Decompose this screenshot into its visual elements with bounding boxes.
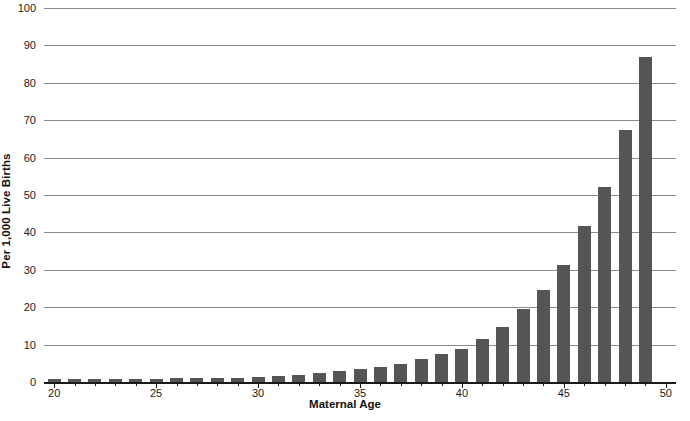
x-tick-24	[136, 382, 137, 386]
bar-age-39	[435, 354, 448, 382]
gridline-90	[44, 45, 676, 46]
x-tick-26	[177, 382, 178, 386]
bar-age-47	[598, 187, 611, 382]
gridline-100	[44, 8, 676, 9]
y-tick-label-20: 20	[0, 302, 36, 313]
y-tick-label-30: 30	[0, 265, 36, 276]
x-tick-42	[503, 382, 504, 386]
y-axis-tick-labels: 0102030405060708090100	[0, 0, 40, 421]
x-tick-29	[238, 382, 239, 386]
bar-age-38	[415, 359, 428, 382]
x-tick-37	[401, 382, 402, 386]
x-tick-22	[95, 382, 96, 386]
x-tick-23	[115, 382, 116, 386]
chart-figure: Per 1,000 Live Births 010203040506070809…	[0, 0, 690, 421]
x-tick-39	[442, 382, 443, 386]
y-tick-label-80: 80	[0, 78, 36, 89]
bar-age-33	[313, 373, 326, 382]
y-tick-label-70: 70	[0, 115, 36, 126]
x-tick-43	[523, 382, 524, 386]
bar-age-48	[619, 130, 632, 382]
bar-age-35	[354, 369, 367, 382]
bar-age-44	[537, 290, 550, 382]
gridline-80	[44, 83, 676, 84]
y-tick-label-0: 0	[0, 377, 36, 388]
bar-age-42	[496, 327, 509, 382]
bar-age-49	[639, 57, 652, 382]
bar-age-40	[455, 349, 468, 382]
y-tick-label-90: 90	[0, 40, 36, 51]
bar-age-34	[333, 371, 346, 382]
x-tick-49	[645, 382, 646, 386]
y-tick-label-60: 60	[0, 153, 36, 164]
bar-age-36	[374, 367, 387, 382]
bar-age-43	[517, 309, 530, 382]
x-tick-33	[319, 382, 320, 386]
bar-age-41	[476, 339, 489, 382]
y-tick-label-100: 100	[0, 3, 36, 14]
gridline-50	[44, 195, 676, 196]
x-tick-27	[197, 382, 198, 386]
x-tick-48	[625, 382, 626, 386]
y-tick-label-10: 10	[0, 340, 36, 351]
bar-age-45	[557, 265, 570, 382]
y-tick-label-50: 50	[0, 190, 36, 201]
x-tick-41	[482, 382, 483, 386]
x-tick-36	[380, 382, 381, 386]
x-tick-44	[543, 382, 544, 386]
gridline-60	[44, 158, 676, 159]
x-tick-32	[299, 382, 300, 386]
x-tick-28	[217, 382, 218, 386]
x-tick-38	[421, 382, 422, 386]
x-tick-46	[584, 382, 585, 386]
y-tick-label-40: 40	[0, 227, 36, 238]
x-tick-34	[340, 382, 341, 386]
bar-age-32	[292, 375, 305, 382]
x-tick-21	[75, 382, 76, 386]
gridline-70	[44, 120, 676, 121]
bar-age-46	[578, 226, 591, 382]
bar-age-37	[394, 364, 407, 382]
x-axis-title: Maternal Age	[0, 398, 690, 410]
x-tick-31	[278, 382, 279, 386]
plot-area	[44, 8, 676, 382]
x-tick-47	[605, 382, 606, 386]
